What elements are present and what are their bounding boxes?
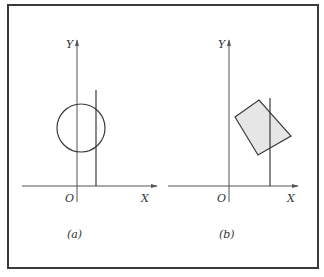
panel-b: Y X O (b) xyxy=(168,38,298,241)
origin-label: O xyxy=(217,192,226,205)
circle-shape xyxy=(57,104,105,152)
y-axis-label: Y xyxy=(218,38,227,51)
x-axis-label: X xyxy=(286,192,296,205)
origin-label: O xyxy=(65,192,74,205)
panel-a: Y X O (a) xyxy=(22,38,157,241)
quadrilateral-shape xyxy=(235,100,291,155)
panel-caption: (a) xyxy=(67,228,82,241)
y-axis-label: Y xyxy=(66,38,75,51)
panel-caption: (b) xyxy=(219,228,235,241)
figure: Y X O (a) Y X O (b) xyxy=(0,0,324,277)
x-axis-label: X xyxy=(140,192,150,205)
